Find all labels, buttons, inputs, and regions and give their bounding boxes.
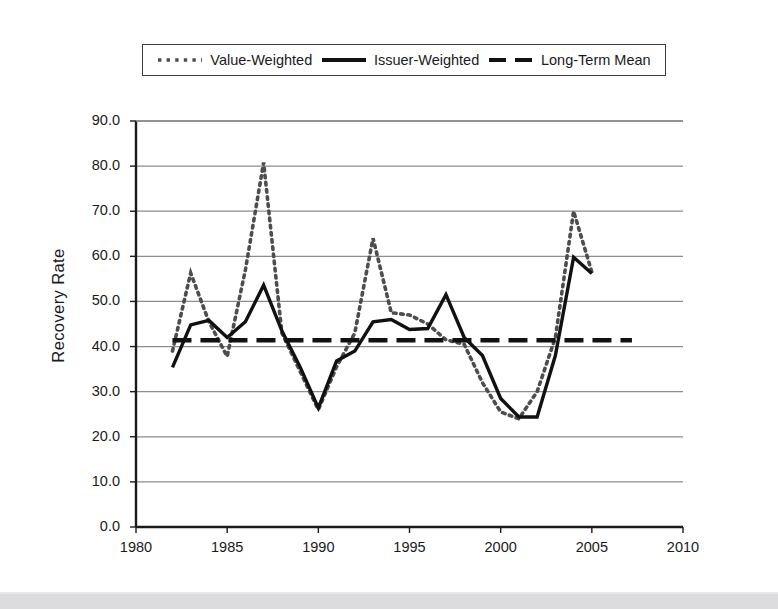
x-tick-label: 1990 [288, 539, 348, 555]
y-tick-label: 30.0 [72, 383, 120, 399]
x-tick-label: 1995 [380, 539, 440, 555]
x-tick-label: 2010 [653, 539, 713, 555]
x-tick-label: 1985 [197, 539, 257, 555]
x-tick-label: 2005 [562, 539, 622, 555]
gridlines [136, 121, 683, 482]
y-tick-label: 10.0 [72, 473, 120, 489]
y-tick-label: 40.0 [72, 338, 120, 354]
y-tick-label: 20.0 [72, 428, 120, 444]
y-tick-label: 0.0 [72, 518, 120, 534]
x-tick-label: 2000 [471, 539, 531, 555]
y-tick-label: 50.0 [72, 292, 120, 308]
axis-frame [136, 121, 683, 527]
y-tick-label: 60.0 [72, 247, 120, 263]
y-tick-label: 80.0 [72, 157, 120, 173]
series-line-value-weighted [172, 163, 591, 419]
chart-figure: Value-Weighted Issuer-Weighted Long-Term… [0, 0, 778, 609]
y-tick-label: 70.0 [72, 202, 120, 218]
x-tick-label: 1980 [106, 539, 166, 555]
data-series-group [172, 163, 631, 419]
y-tick-label: 90.0 [72, 112, 120, 128]
